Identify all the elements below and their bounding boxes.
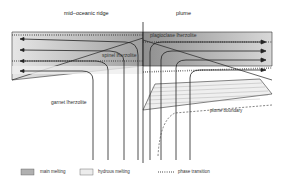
plagioclase-label: plagioclase lherzolite (150, 32, 196, 38)
plume-melting-region (143, 32, 272, 110)
legend-phase-transition: phase transition (178, 169, 210, 174)
legend-hydrous-melting: hydrous melting (98, 169, 130, 174)
spinel-label: spinel lherzolite (102, 52, 136, 58)
garnet-label: garnet lherzolite (51, 99, 87, 105)
plume-boundary-label: plume boundary (210, 108, 242, 113)
mor-title: mid–oceanic ridge (64, 10, 109, 16)
diagram-canvas (0, 0, 286, 186)
legend-main-melting: main melting (40, 169, 66, 174)
legend-swatch-main-melting (21, 169, 34, 175)
plume-title: plume (176, 10, 191, 16)
legend-swatch-hydrous-melting (80, 169, 93, 175)
